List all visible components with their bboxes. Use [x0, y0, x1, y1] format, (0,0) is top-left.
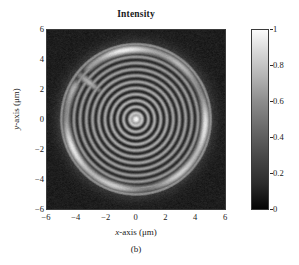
colorbar-tick-label: 0.8	[273, 61, 284, 70]
colorbar-tick-label: 0.4	[273, 133, 284, 142]
y-axis-label: y-axis (μm)	[11, 49, 21, 169]
colorbar-ticks: 10.80.60.40.20	[270, 29, 298, 210]
colorbar-tick-mark	[270, 137, 273, 138]
colorbar-tick-mark	[270, 173, 273, 174]
y-tick-label: −2	[22, 145, 44, 154]
x-axis-label-units: -axis (μm)	[119, 227, 157, 237]
chart-title: Intensity	[46, 9, 226, 20]
colorbar-tick-label: 1	[273, 25, 277, 34]
heatmap-plot-area	[46, 29, 226, 210]
x-tick-label: −4	[63, 213, 89, 222]
colorbar-tick-label: 0.2	[273, 169, 284, 178]
x-tick-label: −2	[93, 213, 119, 222]
y-tick-label: 2	[22, 85, 44, 94]
intensity-figure: Intensity 6420−2−4−6 −6−4−20246 y-axis (…	[0, 0, 299, 265]
x-axis-label: x-axis (μm)	[46, 227, 226, 237]
y-axis-label-symbol: y	[11, 126, 21, 130]
intensity-heatmap-canvas	[47, 30, 225, 209]
x-axis-ticks: −6−4−20246	[46, 213, 226, 225]
x-tick-label: 6	[212, 213, 238, 222]
colorbar-tick-mark	[270, 29, 273, 30]
colorbar-tick-label: 0	[273, 205, 277, 214]
x-tick-label: 4	[182, 213, 208, 222]
y-tick-label: 0	[22, 115, 44, 124]
colorbar-tick-label: 0.6	[273, 97, 284, 106]
x-tick-label: −6	[33, 213, 59, 222]
y-tick-label: 6	[22, 25, 44, 34]
y-axis-label-units: -axis (μm)	[11, 88, 21, 126]
y-axis-ticks: 6420−2−4−6	[20, 29, 44, 210]
x-tick-label: 0	[123, 213, 149, 222]
x-tick-label: 2	[152, 213, 178, 222]
figure-caption: (b)	[46, 244, 226, 254]
y-tick-label: −4	[22, 175, 44, 184]
y-tick-label: 4	[22, 55, 44, 64]
intensity-colorbar	[251, 29, 269, 210]
colorbar-tick-mark	[270, 101, 273, 102]
colorbar-tick-mark	[270, 209, 273, 210]
colorbar-tick-mark	[270, 65, 273, 66]
